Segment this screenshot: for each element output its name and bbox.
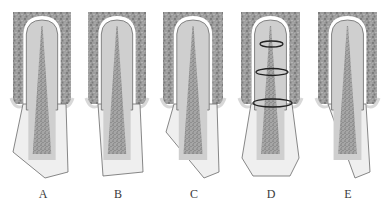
tooth-panel-a [11,12,73,178]
tooth-panel-d [239,12,302,176]
panel-label-d: D [261,187,281,202]
tooth-panel-b [86,12,148,176]
tooth-fracture-figure [0,0,385,208]
tooth-panel-c [161,12,225,178]
panel-label-a: A [33,187,53,202]
panel-label-c: C [184,187,204,202]
tooth-panel-e [316,12,379,178]
panel-label-e: E [338,187,358,202]
panel-label-b: B [108,187,128,202]
